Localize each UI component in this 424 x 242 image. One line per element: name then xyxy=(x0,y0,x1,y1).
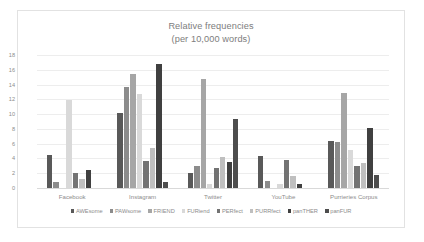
x-axis-label: Twitter xyxy=(178,193,248,200)
legend-label: panTHER xyxy=(293,208,318,214)
legend-label: FURiend xyxy=(187,208,209,214)
bar-groups xyxy=(37,55,389,188)
legend-item[interactable]: PAWsome xyxy=(110,208,142,214)
y-tick-label: 18 xyxy=(9,52,15,58)
chart-card: Relative frequencies (per 10,000 words) … xyxy=(17,10,405,228)
legend-label: PAWsome xyxy=(115,208,141,214)
y-tick-label: 4 xyxy=(12,155,15,161)
y-tick-label: 0 xyxy=(12,185,15,191)
gridline-0 xyxy=(37,188,389,189)
legend-label: AWEsome xyxy=(76,208,103,214)
chart-title: Relative frequencies (per 10,000 words) xyxy=(18,20,404,45)
bar[interactable] xyxy=(328,141,333,188)
bar-group xyxy=(178,55,248,188)
legend-item[interactable]: panFUR xyxy=(325,208,352,214)
y-tick-label: 8 xyxy=(12,126,15,132)
bar[interactable] xyxy=(143,161,148,188)
bar[interactable] xyxy=(227,162,232,188)
legend-label: panFUR xyxy=(330,208,351,214)
bar[interactable] xyxy=(341,93,346,188)
bar[interactable] xyxy=(117,113,122,188)
plot-area xyxy=(37,55,389,188)
bar[interactable] xyxy=(290,176,295,188)
bar[interactable] xyxy=(361,163,366,188)
bar[interactable] xyxy=(207,184,212,188)
x-axis-label: YouTube xyxy=(248,193,318,200)
x-axis-label: Facebook xyxy=(37,193,107,200)
bar[interactable] xyxy=(124,87,129,188)
bar[interactable] xyxy=(374,175,379,188)
x-axis-category-labels: FacebookInstagramTwitterYouTubePurrierie… xyxy=(37,193,389,200)
bar[interactable] xyxy=(297,184,302,188)
bar[interactable] xyxy=(156,64,161,188)
bar[interactable] xyxy=(201,79,206,188)
bar[interactable] xyxy=(130,74,135,188)
legend-item[interactable]: AWEsome xyxy=(71,208,103,214)
y-axis-tick-labels: 024681012141618 xyxy=(1,55,17,188)
legend-swatch-icon xyxy=(148,209,152,213)
y-tick-label: 2 xyxy=(12,170,15,176)
bar[interactable] xyxy=(73,173,78,188)
x-axis-label: Instagram xyxy=(107,193,177,200)
bar[interactable] xyxy=(214,168,219,188)
bar[interactable] xyxy=(188,173,193,188)
legend-label: PERfect xyxy=(222,208,243,214)
bar[interactable] xyxy=(265,181,270,188)
chart-legend: AWEsomePAWsomeFRIENDFURiendPERfectPURRfe… xyxy=(18,208,404,214)
y-tick-label: 10 xyxy=(9,111,15,117)
bar[interactable] xyxy=(194,166,199,188)
chart-title-line1: Relative frequencies xyxy=(18,20,404,33)
legend-label: PURRfect xyxy=(255,208,280,214)
bar[interactable] xyxy=(284,160,289,188)
legend-item[interactable]: panTHER xyxy=(288,208,318,214)
y-tick-label: 16 xyxy=(9,67,15,73)
bar[interactable] xyxy=(354,166,359,188)
bar[interactable] xyxy=(220,157,225,188)
chart-title-line2: (per 10,000 words) xyxy=(18,33,404,46)
bar-group xyxy=(319,55,389,188)
bar[interactable] xyxy=(137,94,142,188)
y-tick-label: 12 xyxy=(9,96,15,102)
bar-group xyxy=(107,55,177,188)
legend-item[interactable]: FURiend xyxy=(182,208,210,214)
bar[interactable] xyxy=(258,156,263,189)
bar[interactable] xyxy=(150,148,155,188)
bar[interactable] xyxy=(233,119,238,188)
bar[interactable] xyxy=(86,170,91,188)
legend-item[interactable]: PERfect xyxy=(217,208,243,214)
legend-swatch-icon xyxy=(182,209,186,213)
bar-group xyxy=(37,55,107,188)
legend-swatch-icon xyxy=(288,209,292,213)
legend-swatch-icon xyxy=(325,209,329,213)
bar[interactable] xyxy=(66,100,71,188)
legend-item[interactable]: PURRfect xyxy=(250,208,281,214)
y-tick-label: 6 xyxy=(12,141,15,147)
bar[interactable] xyxy=(277,184,282,188)
bar[interactable] xyxy=(53,182,58,188)
legend-label: FRIEND xyxy=(154,208,175,214)
bar[interactable] xyxy=(348,150,353,188)
bar[interactable] xyxy=(79,179,84,188)
bar-group xyxy=(248,55,318,188)
bar[interactable] xyxy=(335,142,340,188)
legend-swatch-icon xyxy=(71,209,75,213)
bar[interactable] xyxy=(47,155,52,188)
legend-item[interactable]: FRIEND xyxy=(148,208,175,214)
legend-swatch-icon xyxy=(250,209,254,213)
x-axis-label: Purrieries Corpus xyxy=(319,193,389,200)
legend-swatch-icon xyxy=(217,209,221,213)
legend-swatch-icon xyxy=(110,209,114,213)
y-tick-label: 14 xyxy=(9,82,15,88)
bar[interactable] xyxy=(367,128,372,188)
bar[interactable] xyxy=(163,182,168,188)
